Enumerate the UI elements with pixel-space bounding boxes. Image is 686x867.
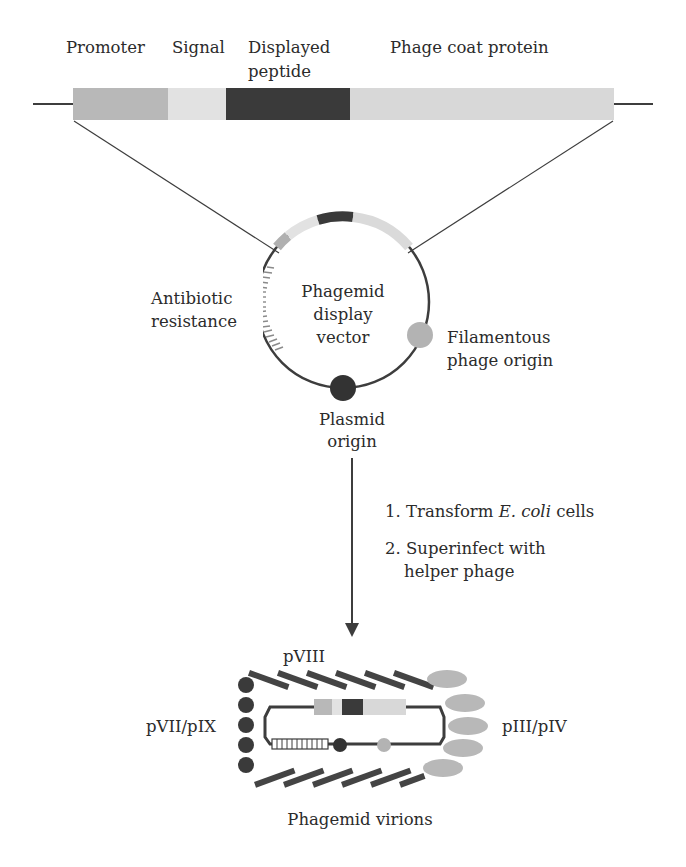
antibiotic-resistance-label-2: resistance xyxy=(151,312,237,331)
signal-segment xyxy=(168,88,226,120)
pviii-bottom-rods xyxy=(254,768,425,788)
pviii-label: pVIII xyxy=(283,647,325,666)
inner-displayed-peptide xyxy=(342,699,363,715)
zoom-line-left xyxy=(74,121,279,253)
phagemid-virion xyxy=(238,670,488,788)
inner-coat-protein xyxy=(363,699,406,715)
step-1-text: 1. Transform E. coli cells xyxy=(385,502,594,521)
arc-coat-protein xyxy=(353,217,409,247)
plasmid-origin-dot xyxy=(330,375,356,401)
arc-displayed-peptide xyxy=(318,216,353,220)
filamentous-origin-label-1: Filamentous xyxy=(447,328,551,347)
inner-signal xyxy=(332,699,342,715)
displayed-peptide-label-2: peptide xyxy=(248,62,311,81)
zoom-line-right xyxy=(408,121,613,253)
phage-coat-protein-label: Phage coat protein xyxy=(390,38,549,57)
antibiotic-resistance-label-1: Antibiotic xyxy=(150,289,232,308)
vector-label-2: display xyxy=(313,305,373,324)
vector-label-3: vector xyxy=(316,328,370,347)
pvii-pix-proteins xyxy=(238,677,254,773)
virion-caption: Phagemid virions xyxy=(287,810,432,829)
promoter-segment xyxy=(73,88,168,120)
arc-promoter xyxy=(277,236,288,247)
step-2-text-2: helper phage xyxy=(404,562,514,581)
plasmid-origin-label-1: Plasmid xyxy=(319,410,386,429)
displayed-peptide-segment xyxy=(226,88,350,120)
expression-cassette xyxy=(33,88,653,120)
pviii-top-rods xyxy=(248,670,435,690)
inner-phage-origin xyxy=(377,738,391,752)
inner-antibiotic-resistance xyxy=(272,739,328,749)
piii-piv-label: pIII/pIV xyxy=(502,717,568,736)
inner-plasmid-origin xyxy=(333,738,347,752)
mask-resist xyxy=(250,262,263,354)
arrow-head-icon xyxy=(345,623,359,637)
promoter-label: Promoter xyxy=(66,38,145,57)
filamentous-phage-origin-dot xyxy=(407,322,433,348)
pvii-pix-label: pVII/pIX xyxy=(146,717,216,736)
step-2-text-1: 2. Superinfect with xyxy=(385,539,546,558)
displayed-peptide-label-1: Displayed xyxy=(248,38,331,57)
phage-coat-protein-segment xyxy=(350,88,614,120)
phagemid-display-diagram: Promoter Signal Displayed peptide Phage … xyxy=(0,0,686,867)
filamentous-origin-label-2: phage origin xyxy=(447,351,554,370)
arc-signal xyxy=(288,220,318,236)
inner-promoter xyxy=(314,699,332,715)
signal-label: Signal xyxy=(172,38,225,57)
plasmid-origin-label-2: origin xyxy=(327,432,377,451)
vector-label-1: Phagemid xyxy=(301,282,385,301)
